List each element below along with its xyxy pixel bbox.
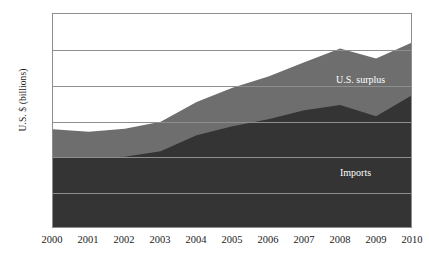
x-tick-label: 2007 — [294, 234, 315, 245]
x-tick-label: 2006 — [258, 234, 279, 245]
y-axis-title: U.S. $ (billions) — [18, 35, 28, 165]
gridline — [53, 50, 412, 51]
area-chart: U.S. $ (billions) 6005004003002001000 U.… — [0, 0, 429, 263]
x-tick-label: 2009 — [366, 234, 387, 245]
series-label-imports: Imports — [340, 167, 371, 178]
x-tick-label: 2001 — [78, 234, 99, 245]
x-tick-label: 2003 — [150, 234, 171, 245]
x-axis-line — [53, 227, 412, 228]
gridline — [53, 157, 412, 158]
gridline — [53, 193, 412, 194]
x-tick-label: 2010 — [402, 234, 423, 245]
x-tick-label: 2004 — [186, 234, 207, 245]
gridline — [53, 86, 412, 87]
x-tick-label: 2000 — [42, 234, 63, 245]
x-axis-tick-labels: 2000200120022003200420052006200720082009… — [52, 234, 412, 250]
plot-right-edge — [411, 14, 412, 228]
plot-area — [52, 13, 412, 228]
x-tick-label: 2005 — [222, 234, 243, 245]
x-tick-label: 2008 — [330, 234, 351, 245]
series-label-us-surplus: U.S. surplus — [336, 74, 385, 85]
gridline — [53, 122, 412, 123]
x-tick-label: 2002 — [114, 234, 135, 245]
